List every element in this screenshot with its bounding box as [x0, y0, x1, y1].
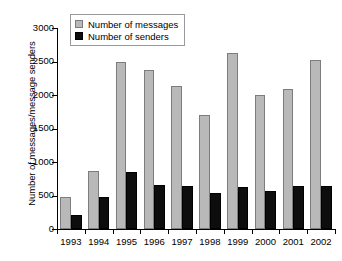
x-tick-mark — [113, 229, 114, 234]
bar-group — [57, 28, 85, 229]
bar-messages — [283, 89, 294, 229]
x-tick-mark — [85, 229, 86, 234]
chart-legend: Number of messagesNumber of senders — [70, 14, 185, 46]
x-tick-label: 1993 — [57, 236, 85, 247]
x-tick-label: 1998 — [196, 236, 224, 247]
x-tick-label: 2002 — [307, 236, 335, 247]
y-tick-label: 0 — [49, 223, 54, 234]
bar-senders — [71, 215, 82, 229]
senders-swatch — [75, 32, 83, 40]
legend-item: Number of senders — [75, 30, 178, 42]
bar-senders — [99, 197, 110, 229]
bar-messages — [116, 62, 127, 229]
bar-group — [196, 28, 224, 229]
x-tick-mark — [57, 229, 58, 234]
x-tick-mark — [196, 229, 197, 234]
messages-swatch — [75, 20, 83, 28]
bar-chart-figure: Number of messages/message senders 05001… — [0, 0, 342, 261]
x-tick-label: 1997 — [168, 236, 196, 247]
x-tick-mark — [168, 229, 169, 234]
y-tick-label: 1000 — [33, 156, 54, 167]
bar-senders — [238, 187, 249, 229]
bar-messages — [171, 86, 182, 229]
bar-messages — [60, 197, 71, 229]
bar-senders — [182, 186, 193, 229]
x-tick-label: 1994 — [85, 236, 113, 247]
legend-item: Number of messages — [75, 18, 178, 30]
y-tick-label: 1500 — [33, 122, 54, 133]
x-tick-label: 2001 — [279, 236, 307, 247]
bar-senders — [265, 191, 276, 229]
bar-messages — [310, 60, 321, 230]
legend-label: Number of messages — [88, 19, 178, 30]
legend-label: Number of senders — [88, 31, 169, 42]
bar-group — [279, 28, 307, 229]
bar-group — [113, 28, 141, 229]
x-tick-label: 2000 — [252, 236, 280, 247]
plot-area: 050010001500200025003000 199319941995199… — [57, 28, 335, 229]
y-tick-label: 500 — [38, 189, 54, 200]
x-tick-mark — [307, 229, 308, 234]
bar-senders — [210, 193, 221, 229]
bar-group — [140, 28, 168, 229]
bar-senders — [154, 185, 165, 229]
y-tick-label: 2500 — [33, 55, 54, 66]
bar-group — [252, 28, 280, 229]
bar-group — [168, 28, 196, 229]
x-tick-label: 1999 — [224, 236, 252, 247]
bar-messages — [88, 171, 99, 229]
bar-group — [307, 28, 335, 229]
y-tick-label: 3000 — [33, 22, 54, 33]
x-tick-label: 1995 — [113, 236, 141, 247]
x-tick-mark — [224, 229, 225, 234]
x-tick-mark — [335, 229, 336, 234]
bar-messages — [144, 70, 155, 229]
x-tick-mark — [279, 229, 280, 234]
bar-group — [224, 28, 252, 229]
bar-senders — [321, 186, 332, 229]
x-tick-label: 1996 — [140, 236, 168, 247]
y-tick-label: 2000 — [33, 89, 54, 100]
bar-messages — [255, 95, 266, 229]
bar-senders — [126, 172, 137, 229]
x-tick-mark — [252, 229, 253, 234]
bar-messages — [199, 115, 210, 229]
bar-senders — [293, 186, 304, 229]
x-tick-mark — [140, 229, 141, 234]
bar-group — [85, 28, 113, 229]
bar-messages — [227, 53, 238, 229]
